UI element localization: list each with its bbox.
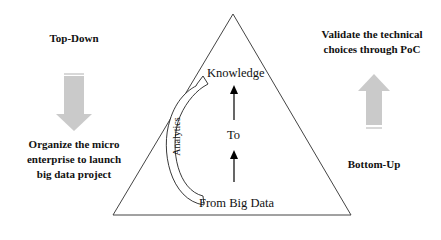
arrow-to-to-icon [230, 150, 238, 182]
bottom-up-heading: Bottom-Up [334, 157, 414, 172]
caption-line: Validate the technical [302, 27, 441, 42]
down-arrow-icon [56, 73, 92, 131]
top-down-heading: Top-Down [24, 31, 124, 46]
up-arrow-icon [358, 74, 390, 129]
from-big-data-label: From Big Data [199, 196, 274, 211]
knowledge-label: Knowledge [207, 66, 265, 81]
bottom-up-caption: Validate the technical choices through P… [302, 27, 441, 57]
caption-line: choices through PoC [302, 42, 441, 57]
top-down-caption: Organize the micro enterprise to launch … [4, 137, 144, 182]
caption-line: enterprise to launch [4, 152, 144, 167]
arrow-to-knowledge-icon [230, 85, 238, 120]
analytics-label: Analytics [171, 117, 182, 155]
caption-line: Organize the micro [4, 137, 144, 152]
caption-line: big data project [4, 167, 144, 182]
to-label: To [227, 128, 240, 143]
